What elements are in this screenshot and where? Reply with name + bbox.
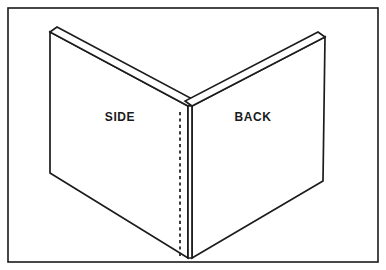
label-side: SIDE (105, 110, 135, 124)
label-back: BACK (234, 110, 271, 124)
drawing-svg (0, 0, 386, 270)
corner-edge-band (188, 106, 192, 258)
technical-drawing-canvas: SIDE BACK (0, 0, 386, 270)
